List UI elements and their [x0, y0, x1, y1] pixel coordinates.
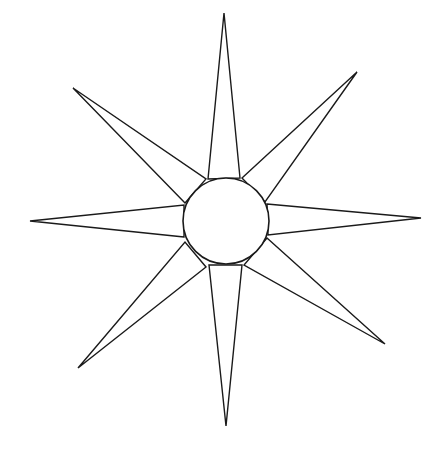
star-figure-canvas	[0, 0, 448, 454]
star-ray-north-west	[73, 88, 206, 203]
star-ray-east	[267, 204, 421, 235]
star-ray-south-east	[244, 238, 385, 344]
star-ray-north	[208, 13, 240, 179]
eight-pointed-star-icon	[0, 0, 448, 454]
star-ray-south	[209, 265, 242, 426]
center-circle	[183, 178, 269, 264]
star-ray-west	[30, 205, 184, 237]
star-ray-south-west	[78, 242, 206, 368]
star-ray-north-east	[242, 72, 357, 202]
